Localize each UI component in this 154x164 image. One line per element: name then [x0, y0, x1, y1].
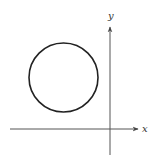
y-axis-label: y: [107, 10, 114, 21]
x-axis-label: x: [142, 123, 148, 134]
circle: [29, 43, 98, 112]
diagram-canvas: x y: [0, 0, 154, 164]
